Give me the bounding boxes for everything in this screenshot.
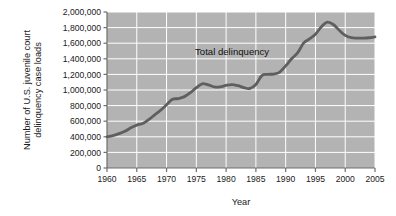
y-tick-label: 1,800,000: [63, 23, 101, 33]
y-tick-label: 400,000: [70, 132, 101, 142]
y-tick-label: 1,200,000: [63, 70, 101, 80]
x-tick-label: 1990: [276, 174, 295, 184]
x-tick-label: 1975: [187, 174, 206, 184]
chart-figure: 0200,000400,000600,000800,0001,000,0001,…: [0, 0, 396, 216]
x-tick-label: 1985: [246, 174, 265, 184]
y-tick-label: 1,600,000: [63, 38, 101, 48]
x-axis-title: Year: [232, 197, 251, 207]
x-tick-label: 1960: [97, 174, 116, 184]
y-tick-label: 600,000: [70, 116, 101, 126]
x-tick-label: 2000: [336, 174, 355, 184]
y-tick-label: 0: [96, 163, 101, 173]
x-tick-label: 1965: [127, 174, 146, 184]
x-tick-label: 1970: [157, 174, 176, 184]
x-tick-label: 1995: [306, 174, 325, 184]
series-annotation-label: Total delinquency: [195, 46, 269, 57]
y-tick-label: 1,000,000: [63, 85, 101, 95]
y-axis-title-line-2: delinquency case loads: [33, 42, 43, 138]
x-tick-label: 2005: [365, 174, 384, 184]
y-tick-label: 800,000: [70, 101, 101, 111]
y-axis-title-line-1: Number of U.S. juvenile court: [22, 30, 32, 150]
x-tick-label: 1980: [217, 174, 236, 184]
y-tick-label: 2,000,000: [63, 7, 101, 17]
y-tick-label: 1,400,000: [63, 54, 101, 64]
juvenile-delinquency-line-chart: 0200,000400,000600,000800,0001,000,0001,…: [0, 0, 396, 216]
y-tick-label: 200,000: [70, 148, 101, 158]
